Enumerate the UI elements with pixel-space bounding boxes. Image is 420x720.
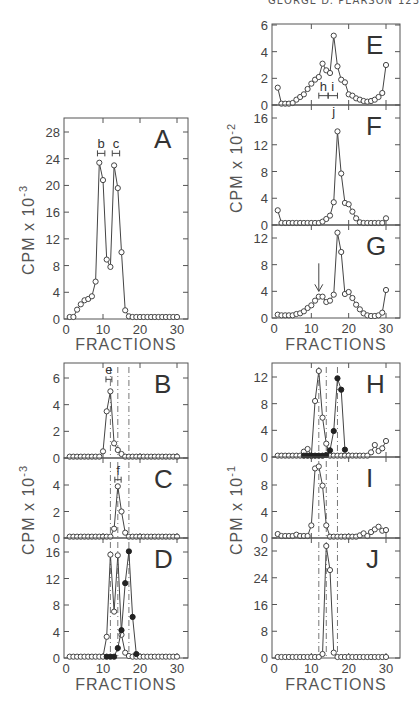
data-point (354, 302, 359, 307)
data-point (372, 442, 377, 447)
data-point (324, 543, 329, 548)
data-point (346, 202, 351, 207)
y-tick-label: 16 (46, 205, 60, 220)
data-point (275, 85, 280, 90)
panel-E: 0246hiE (261, 18, 400, 113)
x-axis-label-D: FRACTIONS (75, 676, 176, 693)
y-tick-label: 8 (53, 259, 60, 274)
panel-H: 04812H (254, 363, 400, 465)
panel-F: 0481216jF (254, 104, 400, 233)
data-point (275, 208, 280, 213)
panel-C: 024fC (53, 458, 188, 546)
panel-frame (272, 538, 400, 658)
data-point (380, 446, 385, 451)
peak-label: j (331, 104, 335, 119)
data-point (174, 314, 179, 319)
y-tick-label: 2 (53, 505, 60, 520)
y-tick-label: 0 (53, 451, 60, 466)
data-point (380, 310, 385, 315)
data-point (320, 415, 325, 420)
data-point (305, 86, 310, 91)
y-tick-label: 20 (46, 178, 60, 193)
data-point (339, 171, 344, 176)
data-point (350, 295, 355, 300)
y-tick-label: 8 (261, 397, 268, 412)
data-point (335, 376, 340, 381)
panel-letter: I (366, 463, 373, 493)
panel-I: 048I (261, 457, 400, 546)
data-point (112, 163, 117, 168)
data-point (350, 209, 355, 214)
y-tick-label: 16 (46, 545, 60, 560)
y-tick-label: 4 (53, 625, 60, 640)
peak-label: i (331, 79, 334, 94)
y-tick-label: 0 (261, 311, 268, 326)
y-tick-label: 0 (53, 651, 60, 666)
svg-text:CPM x 10-2: CPM x 10-2 (225, 123, 245, 213)
y-tick-label: 2 (53, 424, 60, 439)
y-tick-label: 4 (261, 45, 268, 60)
peak-label: f (116, 463, 120, 478)
data-point (331, 292, 336, 297)
data-point (320, 651, 325, 656)
series-line-open (70, 391, 177, 456)
y-tick-label: 8 (261, 624, 268, 639)
data-point (119, 509, 124, 514)
panel-A: 04812162024280102030bcA (46, 118, 188, 337)
data-point (71, 314, 76, 319)
y-axis-label-A: CPM x 10-3 (17, 185, 37, 275)
y-axis-label-EFG: CPM x 10-2 (225, 123, 245, 213)
data-point (331, 650, 336, 655)
data-point (112, 654, 117, 659)
data-point (100, 177, 105, 182)
data-point (112, 441, 117, 446)
data-point (104, 257, 109, 262)
panel-letter: G (366, 231, 386, 261)
panel-letter: J (366, 544, 379, 574)
data-point (126, 549, 131, 554)
data-point (115, 645, 120, 650)
panel-letter: C (154, 464, 173, 494)
data-point (324, 441, 329, 446)
x-axis-label-A: FRACTIONS (75, 336, 176, 353)
y-tick-label: 4 (261, 284, 268, 299)
x-tick-label: 10 (304, 661, 318, 676)
data-point (346, 289, 351, 294)
data-point (119, 250, 124, 255)
data-point (320, 61, 325, 66)
data-point (335, 129, 340, 134)
data-point (327, 298, 332, 303)
data-point (331, 200, 336, 205)
data-point (309, 523, 314, 528)
data-point (93, 279, 98, 284)
panel-letter: D (154, 544, 173, 574)
y-tick-label: 4 (53, 398, 60, 413)
y-tick-label: 0 (53, 312, 60, 327)
y-tick-label: 12 (254, 231, 268, 246)
data-point (331, 428, 336, 433)
data-point (75, 307, 80, 312)
data-point (368, 450, 373, 455)
data-point (104, 409, 109, 414)
data-point (89, 294, 94, 299)
data-point (309, 303, 314, 308)
y-tick-label: 4 (53, 285, 60, 300)
data-point (112, 609, 117, 614)
y-axis-label-BCD: CPM x 10-3 (17, 465, 37, 555)
x-axis-label-G: FRACTIONS (285, 336, 386, 353)
data-point (383, 527, 388, 532)
x-tick-label: 0 (62, 661, 69, 676)
data-point (342, 80, 347, 85)
x-tick-label: 0 (270, 661, 277, 676)
svg-text:CPM x 10-1: CPM x 10-1 (225, 465, 245, 555)
data-point (100, 449, 105, 454)
x-tick-label: 30 (170, 322, 184, 337)
x-tick-label: 30 (379, 321, 393, 336)
x-axis-label-J: FRACTIONS (285, 676, 386, 693)
data-point (123, 581, 128, 586)
data-point (108, 552, 113, 557)
data-point (97, 160, 102, 165)
y-tick-label: 4 (261, 191, 268, 206)
x-tick-label: 10 (304, 321, 318, 336)
data-point (327, 70, 332, 75)
